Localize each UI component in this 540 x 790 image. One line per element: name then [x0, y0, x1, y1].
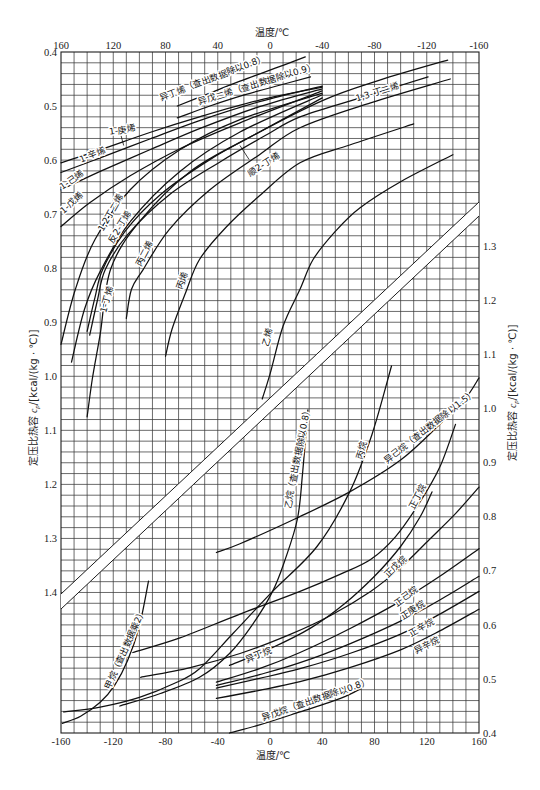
top-axis-tick-label: 40 [213, 40, 224, 51]
left-axis-tick-label: 1.3 [44, 533, 57, 544]
right-axis-tick-label: 0.5 [483, 674, 496, 685]
right-axis-tick-label: 1.2 [483, 295, 496, 306]
top-axis-tick-label: 120 [105, 40, 121, 51]
right-axis-tick-label: 0.8 [483, 511, 496, 522]
left-axis-tick-label: 0.9 [44, 317, 57, 328]
top-axis-tick-label: -80 [368, 40, 382, 51]
top-axis-tick-label: 0 [267, 40, 272, 51]
axis-title-unit: /[kcal/(kg · ℃)] [28, 330, 39, 406]
top-axis-title: 温度/℃ [255, 26, 290, 38]
bottom-axis-tick-label: 120 [419, 736, 435, 747]
bottom-axis-tick-label: -120 [104, 736, 123, 747]
right-axis-tick-label: 0.6 [483, 620, 496, 631]
left-axis-tick-label: 1.1 [44, 425, 57, 436]
left-axis-tick-label: 1.0 [44, 371, 57, 382]
left-axis-tick-label: 0.5 [44, 101, 57, 112]
specific-heat-nomograph: 异丁烯（查出数据除以0.8）异戊二烯（查出数据除以0.9）1-庚烯1-辛烯1-己… [0, 0, 540, 790]
left-axis-tick-label: 1.4 [44, 587, 58, 598]
left-axis-tick-label: 0.4 [44, 47, 58, 58]
right-axis-title: 定压比热容 cp/[kcal/(kg · ℃)] [506, 325, 520, 462]
axis-title-unit: /[kcal/(kg · ℃)] [507, 325, 518, 401]
left-axis-tick-label: 0.7 [44, 209, 57, 220]
right-axis-tick-label: 1.3 [483, 241, 496, 252]
right-axis-tick-label: 0.4 [483, 728, 497, 739]
right-axis-tick-label: 1.0 [483, 403, 496, 414]
right-axis-tick-label: 1.1 [483, 349, 496, 360]
bottom-axis-tick-label: -160 [51, 736, 70, 747]
bottom-axis-tick-label: 0 [267, 736, 272, 747]
bottom-axis-tick-label: -80 [159, 736, 173, 747]
left-axis-tick-label: 0.8 [44, 263, 57, 274]
top-axis-tick-label: -160 [469, 40, 488, 51]
left-axis-title: 定压比热容 cp/[kcal/(kg · ℃)] [27, 330, 41, 467]
axis-title-prefix: 定压比热容 [27, 416, 39, 466]
left-axis-tick-label: 0.6 [44, 155, 57, 166]
bottom-axis-tick-label: 40 [317, 736, 328, 747]
left-axis-tick-label: 1.2 [44, 479, 57, 490]
bottom-axis-tick-label: 80 [369, 736, 380, 747]
bottom-axis-tick-label: -40 [211, 736, 225, 747]
axis-title-prefix: 定压比热容 [506, 411, 518, 461]
bottom-axis-title: 温度/℃ [256, 749, 291, 761]
right-axis-tick-label: 0.7 [483, 565, 496, 576]
right-axis-tick-label: 0.9 [483, 457, 496, 468]
top-axis-tick-label: -120 [417, 40, 436, 51]
top-axis-tick-label: -40 [315, 40, 329, 51]
top-axis-tick-label: 80 [160, 40, 171, 51]
